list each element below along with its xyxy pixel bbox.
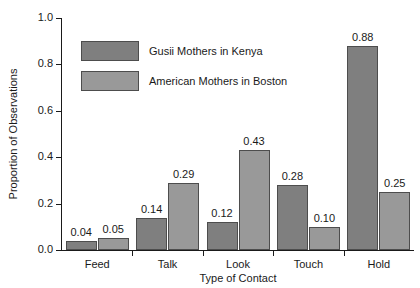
y-axis-tick: 0.4 bbox=[0, 157, 62, 158]
bar-value-label: 0.10 bbox=[303, 212, 346, 225]
y-axis-tick: 1.0 bbox=[0, 18, 62, 19]
bar-value-label: 0.88 bbox=[341, 31, 384, 44]
bar-value-label: 0.29 bbox=[162, 168, 205, 181]
bar bbox=[379, 192, 410, 250]
bar bbox=[168, 183, 199, 250]
x-tick-mark bbox=[344, 251, 345, 256]
y-axis-tick: 0.6 bbox=[0, 111, 62, 112]
x-category-label: Look bbox=[203, 258, 273, 271]
bar bbox=[207, 222, 238, 250]
y-tick-label: 0.8 bbox=[38, 57, 53, 70]
x-tick-mark bbox=[132, 251, 133, 256]
bar-value-label: 0.43 bbox=[233, 135, 276, 148]
bar bbox=[347, 46, 378, 250]
x-category-label: Touch bbox=[273, 258, 343, 271]
bar bbox=[136, 218, 167, 250]
y-tick-label: 0.4 bbox=[38, 150, 53, 163]
x-category-label: Talk bbox=[132, 258, 202, 271]
y-axis-tick: 0.8 bbox=[0, 64, 62, 65]
y-tick-label: 0.6 bbox=[38, 104, 53, 117]
x-tick-mark bbox=[203, 251, 204, 256]
x-axis-title: Type of Contact bbox=[62, 272, 414, 284]
legend-swatch bbox=[81, 71, 139, 91]
y-tick-label: 1.0 bbox=[38, 11, 53, 24]
legend-swatch bbox=[81, 41, 139, 61]
legend-label: Gusii Mothers in Kenya bbox=[149, 44, 263, 58]
legend-label: American Mothers in Boston bbox=[149, 74, 287, 88]
x-category-label: Hold bbox=[344, 258, 414, 271]
y-tick-label: 0.2 bbox=[38, 197, 53, 210]
bar-value-label: 0.14 bbox=[130, 203, 173, 216]
y-tick-mark bbox=[56, 250, 62, 251]
x-category-label: Feed bbox=[62, 258, 132, 271]
x-tick-mark bbox=[273, 251, 274, 256]
bar bbox=[98, 238, 129, 250]
y-axis-tick: 0.0 bbox=[0, 250, 62, 251]
y-tick-label: 0.0 bbox=[38, 243, 53, 256]
y-axis-title: Proportion of Observations bbox=[6, 18, 20, 250]
bar bbox=[239, 150, 270, 250]
bar-value-label: 0.12 bbox=[201, 207, 244, 220]
bar bbox=[66, 241, 97, 250]
y-axis-tick: 0.2 bbox=[0, 204, 62, 205]
bar-value-label: 0.05 bbox=[92, 223, 135, 236]
bar bbox=[309, 227, 340, 250]
x-axis-line bbox=[61, 250, 414, 251]
grouped-bar-chart: Proportion of Observations 0.00.20.40.60… bbox=[0, 0, 420, 288]
bar-value-label: 0.28 bbox=[271, 170, 314, 183]
bar-value-label: 0.25 bbox=[373, 177, 416, 190]
